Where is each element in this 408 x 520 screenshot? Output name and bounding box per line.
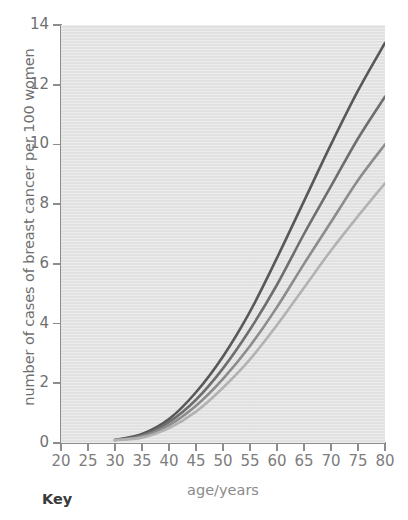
x-tick-label-65: 65 bbox=[290, 454, 318, 469]
x-tick-50 bbox=[222, 443, 224, 451]
x-tick-label-75: 75 bbox=[344, 454, 372, 469]
key-heading: Key bbox=[42, 491, 72, 507]
x-tick-label-80: 80 bbox=[371, 454, 399, 469]
x-tick-30 bbox=[114, 443, 116, 451]
series-curve-2 bbox=[115, 97, 385, 440]
x-tick-label-60: 60 bbox=[263, 454, 291, 469]
y-tick-6 bbox=[53, 263, 61, 265]
x-tick-label-70: 70 bbox=[317, 454, 345, 469]
x-tick-label-25: 25 bbox=[74, 454, 102, 469]
y-tick-12 bbox=[53, 84, 61, 86]
x-tick-label-20: 20 bbox=[47, 454, 75, 469]
x-tick-label-30: 30 bbox=[101, 454, 129, 469]
y-tick-2 bbox=[53, 382, 61, 384]
x-tick-55 bbox=[249, 443, 251, 451]
y-tick-4 bbox=[53, 323, 61, 325]
y-tick-label-0: 0 bbox=[39, 435, 49, 450]
y-tick-14 bbox=[53, 24, 61, 26]
data-curves bbox=[61, 25, 385, 443]
x-tick-40 bbox=[168, 443, 170, 451]
y-tick-label-8: 8 bbox=[39, 196, 49, 211]
y-tick-8 bbox=[53, 203, 61, 205]
x-axis-title: age/years bbox=[61, 482, 385, 498]
x-tick-65 bbox=[303, 443, 305, 451]
x-tick-45 bbox=[195, 443, 197, 451]
x-tick-75 bbox=[357, 443, 359, 451]
plot-area bbox=[61, 25, 385, 443]
x-tick-35 bbox=[141, 443, 143, 451]
x-tick-80 bbox=[384, 443, 386, 451]
x-tick-20 bbox=[60, 443, 62, 451]
x-tick-60 bbox=[276, 443, 278, 451]
x-tick-70 bbox=[330, 443, 332, 451]
series-curve-3 bbox=[115, 144, 385, 440]
y-tick-label-6: 6 bbox=[39, 256, 49, 271]
y-tick-label-4: 4 bbox=[39, 316, 49, 331]
y-tick-label-12: 12 bbox=[30, 77, 49, 92]
series-curve-1 bbox=[115, 43, 385, 440]
y-axis-title: number of cases of breast cancer per 100… bbox=[21, 7, 37, 447]
x-tick-label-35: 35 bbox=[128, 454, 156, 469]
x-tick-label-40: 40 bbox=[155, 454, 183, 469]
x-tick-25 bbox=[87, 443, 89, 451]
x-tick-label-45: 45 bbox=[182, 454, 210, 469]
y-tick-label-2: 2 bbox=[39, 375, 49, 390]
y-tick-10 bbox=[53, 144, 61, 146]
x-tick-label-55: 55 bbox=[236, 454, 264, 469]
chart-figure: number of cases of breast cancer per 100… bbox=[0, 0, 408, 520]
x-tick-label-50: 50 bbox=[209, 454, 237, 469]
y-tick-label-10: 10 bbox=[30, 136, 49, 151]
y-tick-label-14: 14 bbox=[30, 17, 49, 32]
